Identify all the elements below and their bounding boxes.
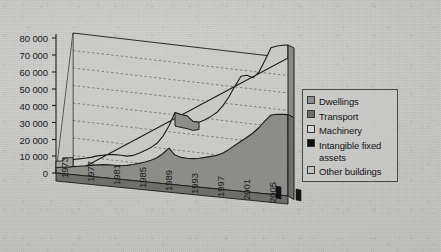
- legend-label: Other buildings: [319, 166, 381, 177]
- chart-legend: Dwellings Transport Machinery Intangible…: [302, 89, 398, 182]
- y-axis: [52, 34, 56, 173]
- right-face-upper: [288, 45, 294, 118]
- right-face-lower: [288, 115, 294, 200]
- x-tick-label: 1973: [59, 157, 70, 178]
- y-axis-labels: 80 000 70 000 60 000 50 000 40 000 30 00…: [0, 0, 48, 252]
- y-tick-label: 60 000: [20, 67, 48, 78]
- legend-swatch-other-buildings: [307, 166, 315, 174]
- x-tick-label: 1977: [85, 161, 96, 182]
- legend-item-other-buildings[interactable]: Other buildings: [307, 164, 393, 177]
- x-tick-label: 1989: [163, 170, 174, 191]
- x-tick-label: 2005: [267, 182, 278, 203]
- x-tick-label: 1993: [189, 173, 200, 194]
- chart-figure: 80 000 70 000 60 000 50 000 40 000 30 00…: [0, 0, 441, 252]
- y-tick-label: 30 000: [20, 117, 48, 128]
- area-intangible-sliver-2: [296, 189, 301, 201]
- legend-swatch-machinery: [307, 125, 315, 133]
- y-tick-label: 70 000: [20, 50, 48, 61]
- y-tick-label: 20 000: [20, 134, 48, 145]
- x-tick-label: 1997: [215, 176, 226, 197]
- y-tick-label: 80 000: [20, 33, 48, 44]
- legend-label: Machinery: [319, 125, 362, 136]
- legend-item-intangible-fixed-assets[interactable]: Intangible fixed: [307, 138, 393, 151]
- y-tick-label: 0: [43, 168, 48, 179]
- x-tick-label: 1985: [137, 167, 148, 188]
- x-tick-label: 1981: [111, 164, 122, 185]
- legend-item-transport[interactable]: Transport: [307, 109, 393, 122]
- x-tick-label: 2001: [241, 179, 252, 200]
- legend-label: Intangible fixed: [319, 140, 381, 151]
- legend-swatch-dwellings: [307, 96, 315, 104]
- legend-item-dwellings[interactable]: Dwellings: [307, 94, 393, 107]
- y-tick-label: 40 000: [20, 100, 48, 111]
- legend-label: Transport: [319, 111, 358, 122]
- legend-swatch-transport: [307, 110, 315, 118]
- legend-label: Dwellings: [319, 96, 359, 107]
- y-tick-label: 50 000: [20, 84, 48, 95]
- legend-swatch-intangible-fixed-assets: [307, 139, 315, 147]
- legend-item-machinery[interactable]: Machinery: [307, 123, 393, 136]
- legend-label-continuation: assets: [307, 152, 393, 163]
- y-tick-label: 10 000: [20, 151, 48, 162]
